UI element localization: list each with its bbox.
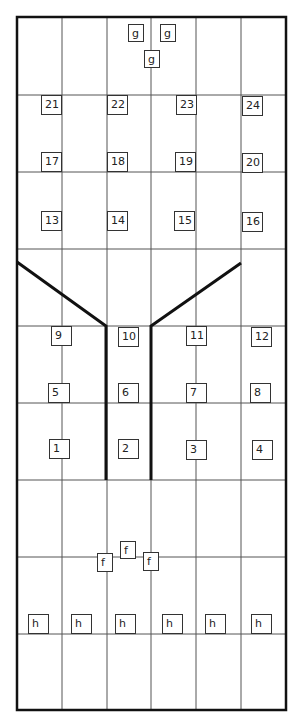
cell-label-g: g: [160, 24, 176, 42]
cell-label-4: 4: [252, 440, 273, 460]
cell-label-17: 17: [41, 152, 62, 172]
cell-label-6: 6: [118, 383, 139, 403]
cell-label-11: 11: [186, 326, 207, 346]
grid-diagram: ggg2122232417181920131415169101112567812…: [0, 0, 297, 724]
cell-label-h: h: [71, 614, 92, 634]
cell-label-f: f: [143, 552, 159, 571]
cell-label-h: h: [162, 614, 183, 634]
cell-label-20: 20: [242, 153, 263, 173]
cell-label-19: 19: [175, 152, 196, 172]
cell-label-f: f: [120, 541, 136, 559]
cell-label-5: 5: [48, 383, 70, 403]
cell-label-12: 12: [251, 327, 272, 347]
cell-label-3: 3: [186, 440, 207, 460]
cell-label-7: 7: [186, 383, 207, 403]
cell-label-16: 16: [242, 212, 263, 232]
cell-label-h: h: [115, 614, 136, 634]
cell-label-24: 24: [242, 96, 263, 116]
cell-label-h: h: [28, 614, 49, 634]
cell-label-g: g: [144, 50, 160, 68]
cell-label-f: f: [97, 553, 113, 572]
cell-label-9: 9: [51, 326, 72, 346]
cell-label-21: 21: [41, 95, 62, 115]
cell-label-15: 15: [174, 211, 195, 231]
cell-label-23: 23: [176, 95, 197, 115]
cell-label-18: 18: [107, 152, 128, 172]
cell-label-1: 1: [49, 439, 70, 459]
cell-label-g: g: [128, 24, 144, 42]
cell-label-h: h: [205, 614, 226, 634]
cell-label-13: 13: [41, 211, 62, 231]
cell-label-8: 8: [250, 383, 271, 403]
cell-label-h: h: [251, 614, 272, 634]
cell-label-22: 22: [107, 95, 128, 115]
cell-label-10: 10: [118, 327, 139, 347]
cell-label-2: 2: [118, 439, 139, 459]
cell-label-14: 14: [107, 211, 128, 231]
